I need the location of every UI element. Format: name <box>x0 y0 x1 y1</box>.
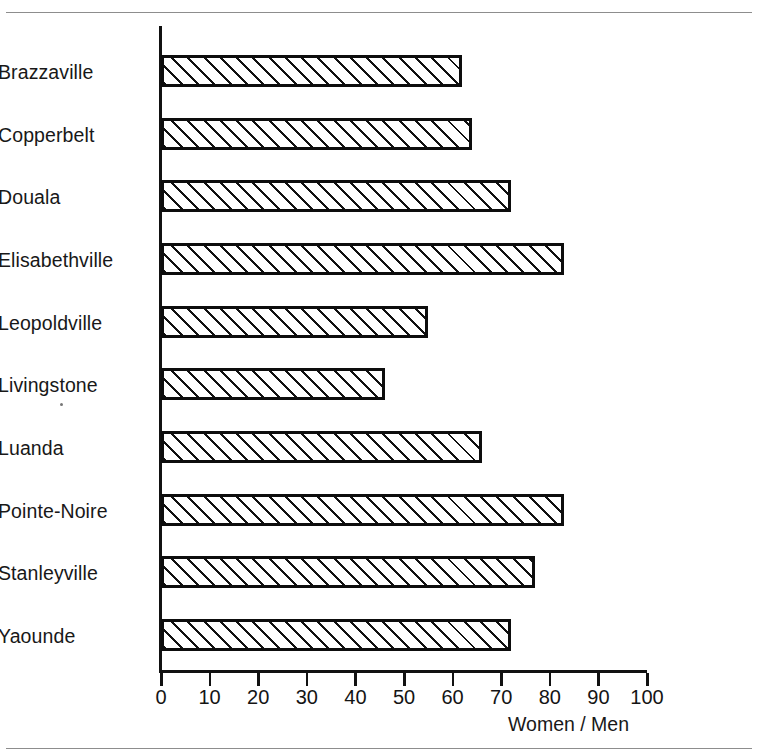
y-axis-tick-label-brazzaville: Brazzaville <box>0 62 158 82</box>
bar-livingstone <box>161 368 385 400</box>
bar-yaounde <box>161 619 511 651</box>
bar-copperbelt <box>161 118 472 150</box>
y-axis-tick-label-yaounde: Yaounde <box>0 626 158 646</box>
x-axis-tick-40 <box>354 673 357 686</box>
x-axis-tick-60 <box>452 673 455 686</box>
bar-douala <box>161 180 511 212</box>
y-axis-tick-label-livingstone: Livingstone <box>0 375 158 395</box>
y-axis-tick-label-douala: Douala <box>0 187 158 207</box>
x-axis-tick-70 <box>500 673 503 686</box>
y-axis-tick-label-stanleyville: Stanleyville <box>0 563 158 583</box>
y-axis-tick-label-leopoldville: Leopoldville <box>0 313 158 333</box>
bar-luanda <box>161 431 482 463</box>
y-axis-tick-label-copperbelt: Copperbelt <box>0 125 158 145</box>
bar-stanleyville <box>161 556 535 588</box>
y-axis-tick-label-elisabethville: Elisabethville <box>0 250 158 270</box>
x-axis-tick-30 <box>306 673 309 686</box>
y-axis-tick-label-pointe-noire: Pointe-Noire <box>0 501 158 521</box>
x-axis-tick-50 <box>403 673 406 686</box>
bar-brazzaville <box>161 55 462 87</box>
y-axis-tick-label-luanda: Luanda <box>0 438 158 458</box>
x-axis-tick-20 <box>257 673 260 686</box>
x-axis-tick-label-100: 100 <box>617 686 677 708</box>
figure-container: Brazzaville Copperbelt Douala Elisabethv… <box>0 0 758 756</box>
x-axis-tick-100 <box>646 673 649 686</box>
x-axis-title: Women / Men <box>508 713 629 735</box>
bar-leopoldville <box>161 306 428 338</box>
x-axis-tick-0 <box>160 673 163 686</box>
bar-chart-plot-area: Brazzaville Copperbelt Douala Elisabethv… <box>0 0 758 756</box>
bar-pointe-noire <box>161 494 564 526</box>
x-axis-tick-80 <box>549 673 552 686</box>
x-axis-tick-10 <box>209 673 212 686</box>
bar-elisabethville <box>161 243 564 275</box>
x-axis-tick-90 <box>597 673 600 686</box>
